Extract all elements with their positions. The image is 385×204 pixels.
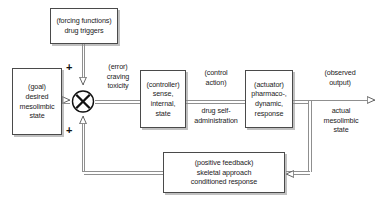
block-goal-line-1: (goal)	[28, 82, 46, 92]
block-controller-line-4: state	[155, 109, 170, 119]
label-error-signal: (error) craving toxicity	[96, 62, 140, 91]
label-drug-self-administration-line-1: drug self-	[186, 106, 246, 116]
label-actual-state: actual mesolimbic state	[313, 106, 369, 135]
sign-plus-bottom: +	[66, 125, 72, 136]
label-drug-self-administration: drug self- administration	[186, 106, 246, 125]
block-positive-feedback-line-3: conditioned response	[191, 177, 257, 187]
label-control-action: (control action)	[188, 68, 244, 87]
block-goal[interactable]: (goal) desired mesolimbic state	[12, 68, 62, 135]
label-actual-state-line-3: state	[313, 125, 369, 135]
label-control-action-line-2: action)	[188, 78, 244, 88]
block-controller-line-2: sense,	[153, 89, 174, 99]
block-controller-line-1: (controller)	[146, 80, 179, 90]
wire-goal-to-junction	[62, 100, 70, 103]
label-error-signal-line-2: craving	[96, 72, 140, 82]
block-controller[interactable]: (controller) sense, internal, state	[140, 70, 186, 128]
block-actuator-line-3: dynamic,	[255, 99, 283, 109]
label-actual-state-line-2: mesolimbic	[313, 116, 369, 126]
block-positive-feedback[interactable]: (positive feedback) skeletal approach co…	[163, 152, 285, 193]
block-goal-line-4: state	[29, 111, 44, 121]
sign-plus-top: +	[66, 62, 72, 73]
label-drug-self-administration-line-2: administration	[186, 116, 246, 126]
block-controller-line-3: internal,	[151, 99, 176, 109]
block-forcing-functions-line-1: (forcing functions)	[56, 16, 111, 26]
block-actuator[interactable]: (actuator) pharmaco-, dynamic, response	[245, 70, 293, 128]
wire-junction-to-controller	[95, 100, 140, 103]
block-positive-feedback-line-2: skeletal approach	[197, 168, 252, 178]
label-control-action-line-1: (control	[188, 68, 244, 78]
block-goal-line-2: desired	[26, 92, 49, 102]
block-diagram-canvas: (forcing functions) drug triggers (goal)…	[0, 0, 385, 204]
block-actuator-line-1: (actuator)	[254, 80, 284, 90]
wire-controller-to-actuator	[185, 100, 245, 103]
label-error-signal-line-1: (error)	[96, 62, 140, 72]
summing-junction-icon	[73, 91, 94, 112]
label-actual-state-line-1: actual	[313, 106, 369, 116]
block-positive-feedback-line-1: (positive feedback)	[195, 158, 253, 168]
block-forcing-functions[interactable]: (forcing functions) drug triggers	[50, 8, 118, 44]
wire-actuator-to-output	[290, 100, 375, 103]
block-actuator-line-2: pharmaco-,	[251, 89, 286, 99]
block-actuator-line-4: response	[255, 109, 284, 119]
label-error-signal-line-3: toxicity	[96, 81, 140, 91]
block-forcing-functions-line-2: drug triggers	[64, 26, 103, 36]
label-observed-output: (observed output)	[311, 68, 369, 87]
label-observed-output-line-1: (observed	[311, 68, 369, 78]
wire-forcing-to-junction	[82, 44, 84, 85]
block-goal-line-3: mesolimbic	[20, 102, 55, 112]
label-observed-output-line-2: output)	[311, 78, 369, 88]
